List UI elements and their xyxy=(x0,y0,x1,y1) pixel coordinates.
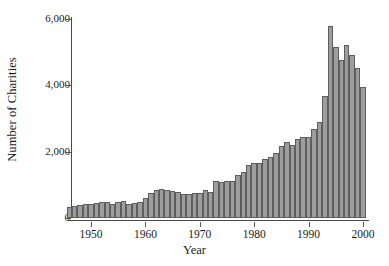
x-axis-tick-label: 1970 xyxy=(180,228,220,240)
y-axis-tick-mark xyxy=(66,19,71,20)
x-axis-title: Year xyxy=(0,243,389,258)
x-axis-line xyxy=(68,220,369,221)
plot-area xyxy=(0,0,389,220)
chart-figure: Number of Charities 02,0004,0006,000 Yea… xyxy=(0,0,389,266)
bar xyxy=(360,87,365,218)
y-axis-tick-mark xyxy=(66,152,71,153)
x-axis-tick-mark xyxy=(91,222,92,227)
x-axis-tick-label: 1990 xyxy=(289,228,329,240)
x-axis-tick-mark xyxy=(145,222,146,227)
x-axis-tick-label: 2000 xyxy=(343,228,383,240)
x-axis-tick-label: 1950 xyxy=(71,228,111,240)
y-axis-tick-mark xyxy=(66,85,71,86)
x-axis-tick-mark xyxy=(200,222,201,227)
x-axis-tick-label: 1980 xyxy=(234,228,274,240)
x-axis-tick-mark xyxy=(254,222,255,227)
x-axis-tick-mark xyxy=(309,222,310,227)
y-axis-tick-mark xyxy=(66,218,71,219)
x-axis-tick-label: 1960 xyxy=(125,228,165,240)
x-axis-tick-mark xyxy=(363,222,364,227)
